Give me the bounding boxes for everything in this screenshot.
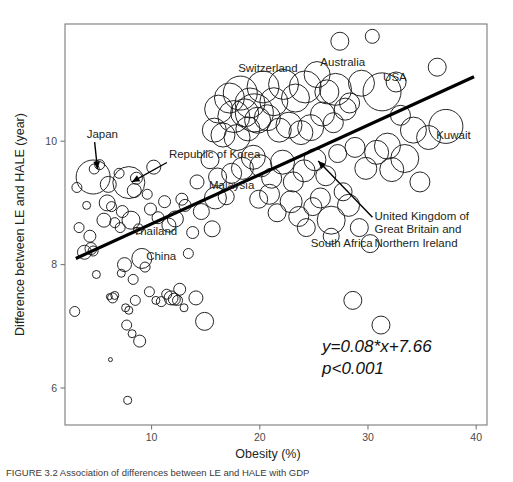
- bubble-point: [283, 172, 303, 192]
- bubble-point: [334, 98, 356, 120]
- annotation-label: Australia: [320, 56, 365, 68]
- annotation-malaysia: Malaysia: [209, 179, 255, 191]
- bubble-point: [260, 88, 288, 116]
- bubble-point: [223, 76, 257, 110]
- annotation-label: United Kingdom of: [374, 210, 469, 222]
- bubble-point: [127, 184, 141, 198]
- annotation-label: China: [146, 250, 177, 262]
- y-tick-label: 6: [51, 382, 57, 394]
- bubble-point: [74, 223, 84, 233]
- bubble-point: [400, 117, 426, 143]
- annotation-united-kingdom-of-great-brit: United Kingdom ofGreat Britain andNorthe…: [374, 210, 469, 248]
- bubble-point: [124, 396, 132, 404]
- annotation-thailand: Thailand: [133, 225, 177, 237]
- x-axis-title: Obesity (%): [235, 447, 300, 461]
- bubble-point: [128, 274, 138, 284]
- bubble-point: [122, 320, 132, 330]
- bubble-point: [128, 330, 136, 338]
- annotation-usa: USA: [383, 71, 407, 83]
- figure-caption: FIGURE 3.2 Association of differences be…: [6, 468, 309, 478]
- bubble-point: [97, 213, 111, 227]
- bubble-point: [355, 157, 377, 179]
- annotation-label: South Africa: [311, 237, 374, 249]
- bubble-point: [410, 172, 430, 192]
- annotation-south-africa: South Africa: [311, 237, 374, 249]
- bubble-point: [180, 304, 188, 312]
- bubble-point: [338, 194, 360, 216]
- annotation-label: Malaysia: [209, 179, 255, 191]
- annotation-republic-of-korea: Republic of Korea: [169, 148, 261, 160]
- annotation-china: China: [146, 250, 177, 262]
- bubble-point: [365, 140, 389, 164]
- bubble-point: [270, 150, 294, 174]
- annotation-label: USA: [383, 71, 407, 83]
- bubble-point: [70, 306, 80, 316]
- regression-equation: y=0.08*x+7.66: [321, 337, 432, 356]
- bubble-point: [189, 291, 203, 305]
- y-tick-label: 8: [51, 258, 57, 270]
- bubble-point: [350, 219, 368, 237]
- bubble-point: [144, 287, 154, 297]
- regression-pvalue: p<0.001: [321, 359, 384, 378]
- annotation-label: Thailand: [133, 225, 177, 237]
- annotation-australia: Australia: [320, 56, 365, 68]
- bubble-point: [142, 189, 152, 199]
- bubble-point: [247, 71, 279, 103]
- bubble-point: [344, 291, 362, 309]
- bubble-point: [134, 335, 146, 347]
- bubble-point: [92, 270, 100, 278]
- bubble-point: [281, 84, 309, 112]
- bubble-point: [348, 70, 374, 96]
- bubble-point: [83, 201, 91, 209]
- x-tick-label: 10: [146, 431, 158, 443]
- annotation-label: Kuwait: [436, 129, 471, 141]
- bubble-point: [211, 123, 235, 147]
- x-tick-label: 20: [254, 431, 266, 443]
- bubble-point: [214, 83, 244, 113]
- bubble-point: [428, 58, 446, 76]
- bubble-point: [130, 295, 140, 305]
- bubble-south-africa: [297, 219, 315, 237]
- bubble-point: [372, 316, 390, 334]
- bubble-switzerland: [235, 94, 273, 132]
- annotation-label: Japan: [87, 128, 118, 140]
- bubble-point: [187, 227, 199, 239]
- bubble-point: [224, 125, 250, 151]
- bubble-point: [190, 175, 204, 189]
- annotation-switzerland: Switzerland: [238, 62, 297, 74]
- bubble-point: [116, 206, 128, 218]
- bubble-point: [174, 283, 186, 295]
- y-tick-label: 10: [45, 135, 57, 147]
- figure-container: 102030406810Obesity (%)Difference betwee…: [0, 0, 513, 482]
- bubble-point: [159, 196, 171, 208]
- bubble-point: [345, 137, 365, 157]
- bubble-point: [245, 107, 271, 133]
- annotation-arrow: [318, 161, 372, 217]
- bubble-point: [323, 113, 343, 133]
- bubble-point: [334, 183, 352, 201]
- bubble-point: [183, 249, 193, 259]
- x-tick-label: 40: [470, 431, 482, 443]
- bubble-point: [202, 118, 226, 142]
- y-axis-title: Difference between LE and HALE (year): [13, 113, 27, 336]
- bubble-point: [196, 312, 214, 330]
- bubble-point: [331, 32, 349, 50]
- annotation-label: Republic of Korea: [169, 148, 261, 160]
- bubble-point: [365, 29, 379, 43]
- bubble-point: [140, 262, 150, 272]
- annotation-kuwait: Kuwait: [436, 129, 471, 141]
- annotation-label: Switzerland: [238, 62, 297, 74]
- figure-caption-strip: FIGURE 3.2 Association of differences be…: [0, 468, 513, 482]
- annotation-label: Great Britain and: [374, 223, 461, 235]
- bubble-point: [108, 358, 112, 362]
- bubble-point: [204, 221, 220, 237]
- bubble-point: [84, 230, 96, 242]
- bubble-point: [193, 204, 209, 220]
- bubble-point: [268, 204, 286, 222]
- x-tick-label: 30: [362, 431, 374, 443]
- annotation-label: Northern Ireland: [374, 237, 457, 249]
- bubble-united-kingdom: [317, 206, 345, 234]
- bubble-point: [72, 182, 82, 192]
- annotation-japan: Japan: [87, 128, 118, 140]
- bubble-chart: 102030406810Obesity (%)Difference betwee…: [0, 0, 513, 482]
